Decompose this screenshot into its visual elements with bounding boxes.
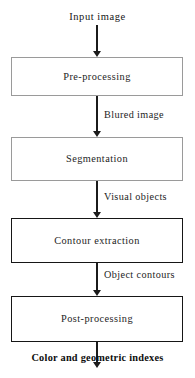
arrow-shaft xyxy=(96,25,98,51)
node-postprocessing: Post-processing xyxy=(11,296,183,342)
arrow-contour-to-postprocessing xyxy=(96,263,98,296)
output-label: Color and geometric indexes xyxy=(0,352,195,364)
node-preprocessing-label: Pre-processing xyxy=(63,71,131,83)
node-segmentation: Segmentation xyxy=(11,137,183,181)
edge-label-visual-objects: Visual objects xyxy=(104,191,167,203)
arrow-shaft xyxy=(96,263,98,290)
flowchart-diagram: Input image Pre-processing Blured image … xyxy=(0,0,195,378)
arrow-segmentation-to-contour xyxy=(96,181,98,218)
node-preprocessing: Pre-processing xyxy=(11,57,183,96)
arrow-shaft xyxy=(96,181,98,212)
edge-label-blured-image: Blured image xyxy=(104,109,164,121)
node-contour-extraction: Contour extraction xyxy=(11,218,183,263)
arrow-input-to-preprocessing xyxy=(96,25,98,57)
arrow-shaft xyxy=(96,96,98,131)
node-postprocessing-label: Post-processing xyxy=(61,313,133,325)
node-contour-extraction-label: Contour extraction xyxy=(54,235,140,247)
arrow-preprocessing-to-segmentation xyxy=(96,96,98,137)
edge-label-object-contours: Object contours xyxy=(104,269,175,281)
node-segmentation-label: Segmentation xyxy=(66,153,128,165)
input-label: Input image xyxy=(0,11,195,23)
